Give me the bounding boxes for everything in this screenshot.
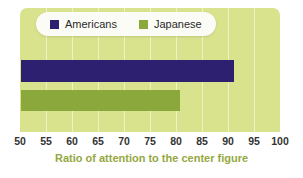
square-swatch-olive-icon (139, 20, 148, 29)
legend-entry-japanese: Japanese (139, 19, 202, 30)
bar-americans (21, 60, 234, 82)
x-axis-tick-label: 75 (144, 134, 156, 148)
x-axis-tick-label: 70 (118, 134, 130, 148)
x-axis-tick-label: 100 (271, 134, 289, 148)
x-axis-tick-label: 85 (196, 134, 208, 148)
bar-chart-figure: Americans Japanese 505560657075808590951… (0, 0, 303, 178)
x-axis-tick-label: 90 (222, 134, 234, 148)
x-axis-tick-label: 65 (92, 134, 104, 148)
x-axis-tick-label: 55 (40, 134, 52, 148)
bar-japanese (21, 90, 180, 111)
x-axis-caption: Ratio of attention to the center figure (0, 152, 303, 164)
legend-label-americans: Americans (65, 19, 117, 30)
gridline (254, 8, 255, 132)
x-axis-tick-label: 60 (66, 134, 78, 148)
square-swatch-navy-icon (50, 20, 59, 29)
x-axis-tick-labels: 50556065707580859095100 (20, 134, 280, 148)
x-axis-tick-label: 50 (14, 134, 26, 148)
legend-entry-americans: Americans (50, 19, 117, 30)
chart-legend: Americans Japanese (36, 12, 216, 36)
x-axis-tick-label: 80 (170, 134, 182, 148)
x-axis-tick-label: 95 (248, 134, 260, 148)
legend-label-japanese: Japanese (154, 19, 202, 30)
